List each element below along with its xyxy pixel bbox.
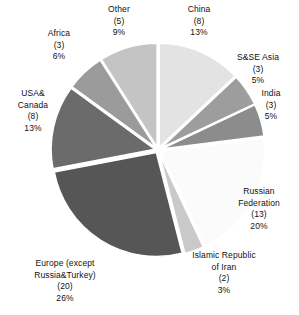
slice-label-other-count: (5) <box>86 16 152 28</box>
slice-label-india-name: India <box>246 88 296 100</box>
slice-label-africa: Africa (3) 6% <box>28 28 90 63</box>
slice-label-ssea-name: S&SE Asia <box>222 52 294 64</box>
slice-label-india-percent: 5% <box>246 111 296 123</box>
slice-label-ssea-percent: 5% <box>222 75 294 87</box>
slice-label-usa-canada-name-line2: Canada <box>2 100 64 112</box>
slice-label-europe-name-line2: Russia&Turkey) <box>10 270 120 282</box>
slice-label-iran-name-line1: Islamic Republic <box>178 250 270 262</box>
slice-label-other-percent: 9% <box>86 27 152 39</box>
slice-label-europe-count: (20) <box>10 281 120 293</box>
slice-label-usa-canada-count: (8) <box>2 111 64 123</box>
slice-label-usa-canada-percent: 13% <box>2 123 64 135</box>
slice-label-iran-count: (2) <box>178 273 270 285</box>
slice-label-russian-federation-name-line2: Federation <box>222 198 296 210</box>
slice-label-china-count: (8) <box>166 16 232 28</box>
slice-label-china: China (8) 13% <box>166 4 232 39</box>
slice-label-russian-federation-name-line1: Russian <box>222 186 296 198</box>
slice-label-china-name: China <box>166 4 232 16</box>
slice-label-usa-canada: USA& Canada (8) 13% <box>2 88 64 134</box>
slice-label-russian-federation: Russian Federation (13) 20% <box>222 186 296 232</box>
slice-label-europe-percent: 26% <box>10 293 120 305</box>
slice-label-africa-count: (3) <box>28 40 90 52</box>
slice-label-africa-percent: 6% <box>28 51 90 63</box>
slice-label-africa-name: Africa <box>28 28 90 40</box>
slice-label-russian-federation-count: (13) <box>222 209 296 221</box>
slice-label-usa-canada-name-line1: USA& <box>2 88 64 100</box>
slice-label-ssea: S&SE Asia (3) 5% <box>222 52 294 87</box>
slice-label-iran-percent: 3% <box>178 285 270 297</box>
slice-label-ssea-count: (3) <box>222 64 294 76</box>
slice-label-other-name: Other <box>86 4 152 16</box>
slice-label-india-count: (3) <box>246 100 296 112</box>
slice-label-iran-name-line2: of Iran <box>178 262 270 274</box>
slice-label-china-percent: 13% <box>166 27 232 39</box>
slice-label-europe: Europe (except Russia&Turkey) (20) 26% <box>10 258 120 304</box>
slice-label-europe-name-line1: Europe (except <box>10 258 120 270</box>
slice-label-russian-federation-percent: 20% <box>222 221 296 233</box>
slice-label-india: India (3) 5% <box>246 88 296 123</box>
pie-chart-figure: Other (5) 9% China (8) 13% Africa (3) 6%… <box>0 0 299 315</box>
slice-label-other: Other (5) 9% <box>86 4 152 39</box>
slice-label-iran: Islamic Republic of Iran (2) 3% <box>178 250 270 296</box>
